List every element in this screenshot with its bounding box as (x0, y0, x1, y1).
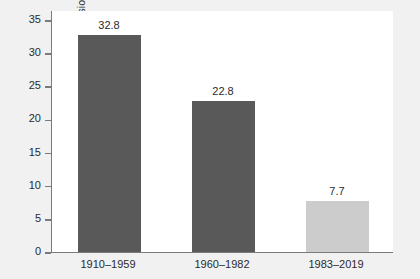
bar-value-1: 22.8 (192, 85, 255, 97)
y-tick-label-30: 30 (29, 46, 41, 58)
bar-1: 22.8 (192, 101, 255, 252)
x-axis-label-2: 1983–2019 (276, 258, 396, 270)
y-tick-label-20: 20 (29, 112, 41, 124)
bar-value-2: 7.7 (306, 185, 369, 197)
x-axis-label-1: 1960–1982 (162, 258, 282, 270)
bar-0: 32.8 (78, 35, 141, 252)
plot-area: 32.8 22.8 7.7 (51, 11, 393, 253)
y-tick-label-10: 10 (29, 179, 41, 191)
bar-chart-figure: Percent of time in recession 05101520253… (0, 0, 420, 279)
y-tick-label-25: 25 (29, 79, 41, 91)
y-tick-label-15: 15 (29, 146, 41, 158)
x-axis-label-0: 1910–1959 (48, 258, 168, 270)
y-tick-label-5: 5 (35, 212, 41, 224)
y-tick-label-35: 35 (29, 13, 41, 25)
bar-2: 7.7 (306, 201, 369, 252)
bar-value-0: 32.8 (78, 19, 141, 31)
y-tick-label-0: 0 (35, 245, 41, 257)
y-axis-ticks: 05101520253035 (0, 0, 51, 279)
